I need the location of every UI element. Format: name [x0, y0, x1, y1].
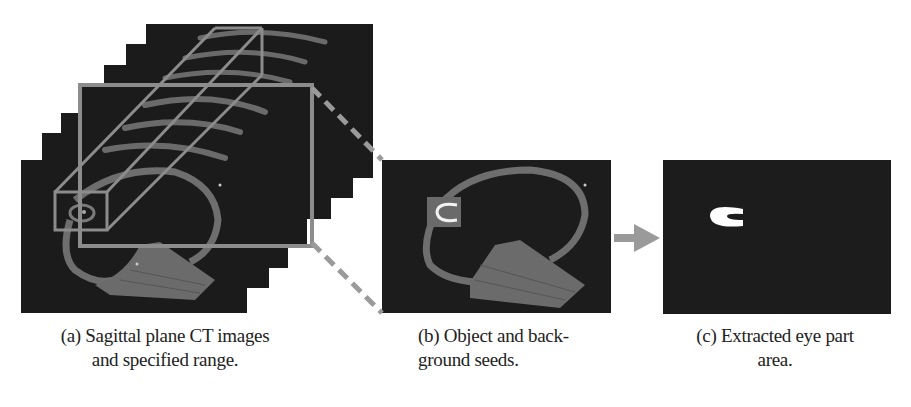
caption-c: (c) Extracted eye part area.	[655, 324, 895, 372]
zoom-connector-lines	[312, 88, 382, 313]
seed-region-b	[427, 197, 461, 227]
caption-c-line2: area.	[655, 348, 895, 372]
caption-b-line2: ground seeds.	[418, 348, 658, 372]
caption-a-line1: (a) Sagittal plane CT images	[20, 324, 310, 348]
caption-b-line1: (b) Object and back-	[418, 324, 658, 348]
neck-region-a	[95, 242, 215, 300]
skull-arcs-a	[105, 32, 325, 158]
arrow-b-to-c	[614, 224, 660, 252]
caption-a-line2: and specified range.	[20, 348, 310, 372]
caption-b: (b) Object and back- ground seeds.	[380, 324, 658, 372]
caption-a: (a) Sagittal plane CT images and specifi…	[20, 324, 310, 372]
eye-mask-c	[710, 207, 743, 226]
caption-c-line1: (c) Extracted eye part	[655, 324, 895, 348]
